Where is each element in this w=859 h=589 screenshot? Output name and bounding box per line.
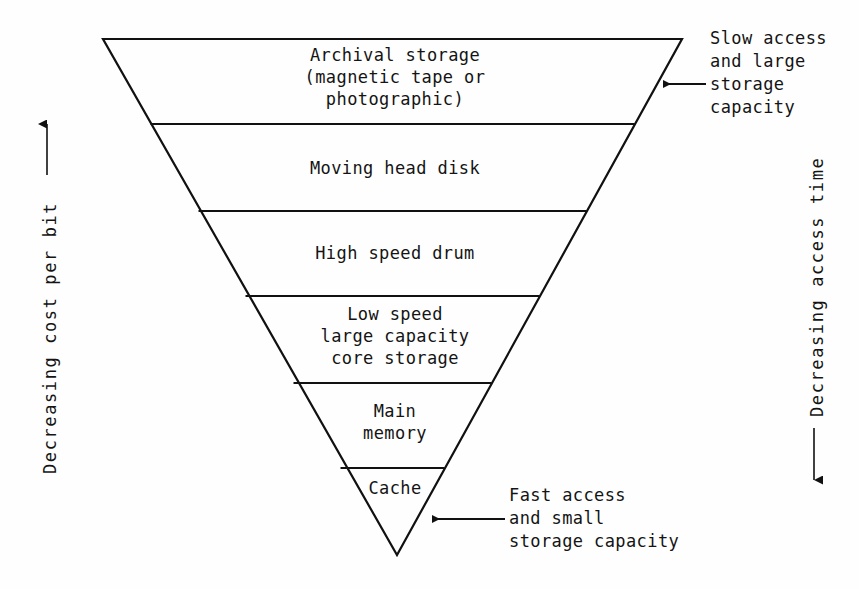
axis-label-access-time: Decreasing access time bbox=[807, 157, 827, 417]
callout-fast-access: Fast access and small storage capacity bbox=[509, 484, 679, 553]
memory-hierarchy-figure: Archival storage (magnetic tape or photo… bbox=[0, 0, 859, 589]
callout-slow-access: Slow access and large storage capacity bbox=[710, 27, 827, 119]
axis-label-cost-per-bit: Decreasing cost per bit bbox=[40, 202, 60, 474]
